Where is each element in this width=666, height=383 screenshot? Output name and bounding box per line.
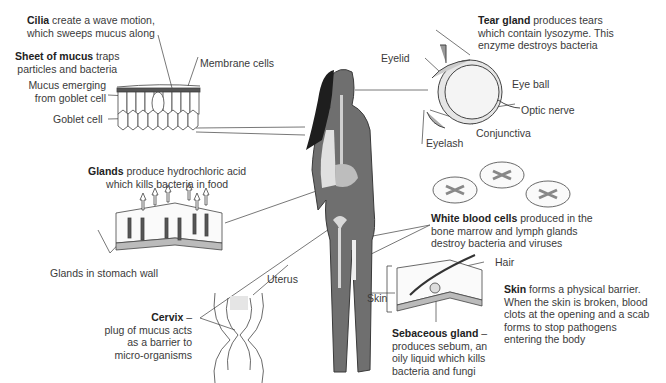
stomach-wall-illustration (116, 183, 222, 250)
conjunctiva-label: Conjunctiva (476, 127, 531, 140)
sebaceous-gland-label: Sebaceous gland – produces sebum, an oil… (392, 327, 487, 377)
cervix-label: Cervix – plug of mucus acts as a barrier… (60, 311, 192, 361)
skin-illustration (387, 255, 482, 312)
white-blood-cells-label: White blood cells produced in the bone m… (431, 212, 593, 250)
optic-nerve-label: Optic nerve (521, 104, 575, 117)
eye-ball-label: Eye ball (512, 78, 549, 91)
membrane-cells-label: Membrane cells (200, 57, 274, 70)
mucus-membrane-illustration (117, 85, 200, 130)
uterus-label: Uterus (267, 273, 298, 286)
glands-label: Glands produce hydrochloric acid which k… (88, 165, 246, 190)
hair-label: Hair (495, 256, 514, 269)
mucus-emerging-label: Mucus emerging from goblet cell (22, 79, 106, 104)
skin-label: Skin (367, 292, 387, 305)
goblet-cell-label: Goblet cell (53, 113, 103, 126)
human-body-silhouette (306, 69, 375, 372)
white-blood-cells-illustration (433, 162, 570, 207)
glands-stomach-wall-label: Glands in stomach wall (50, 267, 158, 280)
cilia-label: Cilia create a wave motion, which sweeps… (27, 14, 155, 39)
tear-gland-label: Tear gland produces tears which contain … (478, 14, 614, 52)
cervix-illustration (214, 293, 263, 383)
eyelash-label: Eyelash (426, 137, 463, 150)
mucus-sheet-label: Sheet of mucus traps particles and bacte… (15, 50, 119, 75)
eyelid-label: Eyelid (381, 52, 410, 65)
eye-illustration (427, 45, 520, 128)
skin-description-label: Skin forms a physical barrier. When the … (504, 283, 649, 346)
